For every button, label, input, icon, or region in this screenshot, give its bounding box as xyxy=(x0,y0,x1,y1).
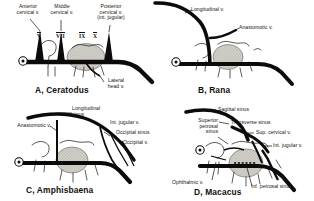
panel-a-cranial-nerve-v: V xyxy=(37,32,41,39)
panel-a-leader-anterior xyxy=(30,19,40,31)
panel-d-ophthalmic-vein xyxy=(211,156,226,160)
panel-d-superior-petrosal-sinus xyxy=(224,148,244,150)
panel-d-leader-transverse xyxy=(219,122,229,124)
panel-c-label-anastomotic-vein: Anastomotic v. xyxy=(4,123,51,129)
panel-d-leader-sup-petrosal xyxy=(218,137,228,144)
panel-a-cranial-nerve-ix: IX xyxy=(79,32,85,39)
panel-c-eye-icon xyxy=(15,158,23,166)
panel-b-rana-drawing xyxy=(155,3,292,84)
panel-d-eye-icon xyxy=(196,146,204,154)
panel-b-label-anastomotic-vein: Anastomotic v. xyxy=(239,25,299,31)
panel-a-label-posterior-cervical-vein: Posterior cervical v. (int. jugular) xyxy=(86,4,136,21)
panel-d-label-transverse-sinus: Transverse sinus xyxy=(231,120,293,126)
panel-a-title: A, Ceratodus xyxy=(35,85,89,95)
panel-d-label-sagittal-sinus: Sagittal sinus xyxy=(218,107,274,113)
panel-a-posterior-cervical-vein xyxy=(104,32,113,62)
panel-c-label-longitudinal-sinus: Longitudinal sinus xyxy=(72,106,114,117)
panel-d-label-inf-petrosal-sinus: Inf. petrosal sinus xyxy=(251,184,313,190)
panel-a-leader-posterior xyxy=(109,25,110,32)
panel-c-label-occipital-sinus: Occipital sinus xyxy=(116,130,166,136)
panel-d-label-sup-cervical-vein: Sup. cervical v. xyxy=(256,130,314,136)
panel-d-label-int-jugular-vein: Int. jugular v. xyxy=(273,143,314,149)
panel-b-eye-icon xyxy=(172,58,180,66)
panel-a-skeletal-outline xyxy=(42,40,56,76)
panel-c-label-int-jugular-vein: Int. jugular v. xyxy=(110,120,156,126)
panel-b-title: B, Rana xyxy=(198,85,230,95)
panel-c-label-occipital-vein: Occipital v. xyxy=(123,140,167,146)
panel-a-label-lateral-head-vein: Lateral head v. xyxy=(100,78,132,89)
panel-c-shaded-head-mass xyxy=(56,147,88,173)
panel-a-ceratodus-drawing xyxy=(19,19,152,82)
panel-b-anastomotic-vein xyxy=(210,30,236,38)
panel-a-eye-icon xyxy=(19,57,27,65)
panel-c-title: C, Amphisbaena xyxy=(26,185,93,195)
panel-c-leader-anastomotic xyxy=(50,126,57,131)
panel-d-title: D, Macacus xyxy=(194,187,242,197)
panel-b-label-longitudinal-vein: Longitudinal v. xyxy=(191,7,251,13)
panel-d-label-ophthalmic-vein: Ophthalmic v. xyxy=(172,180,216,186)
panel-a-cranial-nerve-x: X xyxy=(93,32,97,39)
panel-d-label-superior-petrosal-sinus: Superior petrosal sinus xyxy=(170,118,218,135)
panel-a-label-middle-cervical-vein: Middle cervical v. xyxy=(39,4,85,15)
panel-a-cranial-nerve-vii: VII xyxy=(56,32,65,39)
